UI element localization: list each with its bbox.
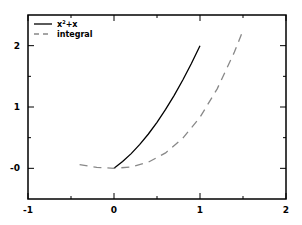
- x-tick-label: -1: [23, 205, 33, 215]
- y-tick-label: -0: [10, 163, 20, 173]
- axis-ticks: -1012-012: [10, 15, 289, 215]
- legend: x2+x integral: [34, 19, 93, 39]
- series-line-0: [114, 46, 200, 169]
- plot-area: [80, 30, 243, 168]
- chart: -1012-012 x2+x integral: [0, 0, 302, 225]
- x-tick-label: 1: [197, 205, 203, 215]
- plot-frame: [28, 15, 286, 199]
- y-tick-label: 1: [14, 102, 20, 112]
- x-tick-label: 2: [283, 205, 289, 215]
- legend-label-integral: integral: [57, 30, 93, 39]
- y-tick-label: 2: [14, 41, 20, 51]
- legend-label-func: x2+x: [57, 19, 78, 29]
- x-tick-label: 0: [111, 205, 117, 215]
- series-line-1: [80, 30, 243, 168]
